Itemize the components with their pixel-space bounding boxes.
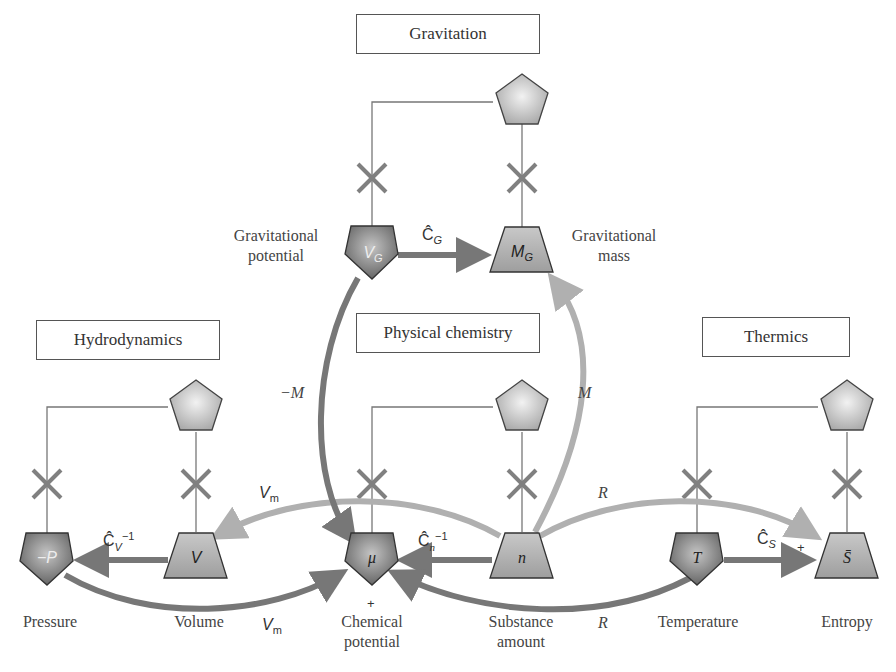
edge-label-cn-inv: Ĉn−1	[418, 530, 448, 553]
domain-title: Physical chemistry	[384, 323, 513, 343]
label-substance-amount: Substanceamount	[476, 612, 566, 652]
arrow-t-to-mu	[398, 575, 690, 609]
domain-title: Thermics	[744, 327, 808, 347]
sign-plus-s: +	[797, 540, 805, 555]
node-symbol-p: −P	[30, 549, 64, 567]
diagram-canvas: Gravitation Hydrodynamics Physical chemi…	[0, 0, 896, 672]
source-pentagon-icon	[496, 380, 548, 430]
node-symbol-t: T	[682, 549, 712, 567]
node-symbol-v: V	[181, 549, 211, 567]
node-symbol-mu: μ	[357, 549, 387, 567]
edge-label-minus-m: −M	[280, 384, 304, 402]
edge-label-cs: ĈS	[757, 530, 776, 550]
edge-label-r-top: R	[598, 484, 608, 502]
source-pentagon-icon	[821, 380, 873, 430]
arrow-p-to-mu	[65, 575, 338, 609]
node-symbol-mg: MG	[504, 243, 540, 263]
edge-label-cv-inv: ĈV−1	[103, 530, 134, 553]
source-pentagon-icon	[170, 380, 222, 430]
label-entropy: Entropy	[812, 612, 882, 632]
label-chemical-potential: Chemicalpotential	[327, 612, 417, 652]
node-symbol-n: n	[507, 549, 537, 567]
label-gravitational-mass: Gravitationalmass	[560, 226, 668, 266]
label-gravitational-potential: Gravitationalpotential	[222, 226, 330, 266]
sign-plus-mu: +	[367, 596, 375, 611]
edge-label-vm-top: Vm	[259, 484, 279, 504]
node-symbol-s: S̄	[832, 549, 862, 567]
node-symbol-vg: VG	[358, 244, 388, 264]
label-temperature: Temperature	[648, 612, 748, 632]
domain-box-gravitation: Gravitation	[356, 14, 540, 54]
domain-box-physical-chemistry: Physical chemistry	[356, 313, 540, 353]
edge-label-r-bottom: R	[598, 614, 608, 632]
label-pressure: Pressure	[10, 612, 90, 632]
arrow-vg-to-mu	[321, 278, 358, 536]
edge-label-vm-bottom: Vm	[262, 616, 282, 636]
edge-label-cg: ĈG	[422, 226, 442, 246]
label-volume: Volume	[164, 612, 234, 632]
edge-label-m: M	[578, 384, 591, 402]
arrow-n-to-v	[220, 501, 500, 536]
domain-box-hydrodynamics: Hydrodynamics	[36, 320, 220, 360]
domain-title: Gravitation	[409, 24, 486, 44]
source-pentagon-icon	[496, 74, 548, 124]
domain-title: Hydrodynamics	[74, 330, 183, 350]
domain-box-thermics: Thermics	[702, 317, 850, 357]
